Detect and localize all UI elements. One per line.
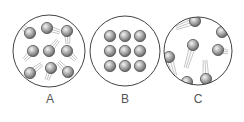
particle bbox=[24, 27, 35, 38]
panel-a-liquid bbox=[13, 15, 85, 87]
panel-label-a: A bbox=[40, 92, 60, 106]
particle bbox=[104, 60, 115, 71]
particle bbox=[62, 66, 73, 77]
particle bbox=[61, 45, 72, 56]
particle bbox=[61, 25, 72, 36]
particle bbox=[134, 60, 145, 71]
particle bbox=[134, 30, 145, 41]
particle bbox=[104, 45, 115, 56]
particle bbox=[212, 44, 223, 55]
particle bbox=[45, 62, 56, 73]
particle bbox=[187, 39, 198, 50]
particle bbox=[119, 45, 130, 56]
particle bbox=[41, 22, 52, 33]
particle bbox=[24, 67, 35, 78]
panel-label-b: B bbox=[115, 92, 135, 106]
particle bbox=[134, 45, 145, 56]
particle bbox=[104, 30, 115, 41]
particle bbox=[27, 45, 38, 56]
particle bbox=[43, 45, 54, 56]
panel-b-solid bbox=[90, 16, 160, 86]
panel-label-c: C bbox=[188, 92, 208, 106]
particle bbox=[119, 60, 130, 71]
panel-c-gas bbox=[163, 15, 232, 87]
particle bbox=[119, 30, 130, 41]
